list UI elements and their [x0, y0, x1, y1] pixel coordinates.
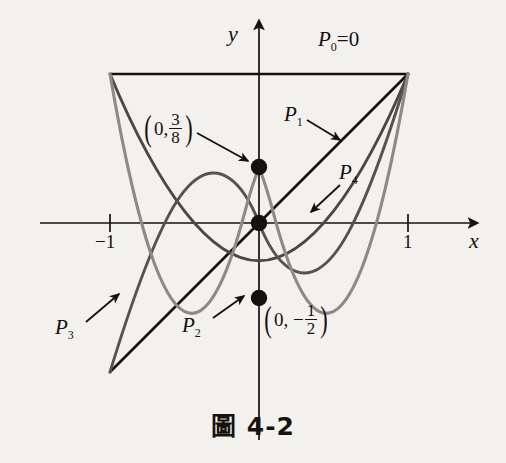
- point-label-minus-one-half-prefix: 0, −: [274, 309, 304, 331]
- fraction-numerator: 1: [305, 302, 318, 319]
- curve-label-p3-subscript: 3: [68, 328, 74, 342]
- figure-caption-cjk: 圖: [211, 412, 237, 441]
- curve-label-p1-letter: P: [284, 102, 297, 126]
- curve-label-p0-letter: P: [318, 27, 331, 51]
- marker-origin: [251, 215, 267, 231]
- fraction-denominator: 8: [169, 128, 182, 146]
- open-paren-icon: (: [264, 305, 271, 335]
- curve-label-p4: P4: [339, 160, 358, 188]
- close-paren-icon: ): [185, 114, 192, 144]
- point-label-minus-one-half: ( 0, − 1 2 ): [262, 302, 330, 338]
- marker-three-eighths: [251, 159, 267, 175]
- curve-label-p4-letter: P: [339, 160, 352, 184]
- leader-arrow-three-eighths: [197, 133, 248, 161]
- curve-label-p2-letter: P: [182, 313, 195, 337]
- figure-caption-number: 4-2: [247, 412, 295, 441]
- x-tick-label-minus-one: −1: [95, 231, 115, 253]
- x-axis-label: x: [469, 228, 479, 254]
- curve-label-p2: P2: [182, 313, 201, 341]
- curve-label-p0: P0=0: [318, 27, 359, 55]
- curve-label-p1-subscript: 1: [297, 115, 303, 129]
- curve-label-p0-suffix: =0: [337, 27, 359, 51]
- curve-label-p1: P1: [284, 102, 303, 130]
- fraction-denominator: 2: [305, 319, 318, 337]
- curve-label-p3: P3: [55, 315, 74, 343]
- figure-caption: 圖 4-2: [0, 406, 506, 442]
- fraction-one-half: 1 2: [305, 302, 318, 338]
- fraction-numerator: 3: [169, 111, 182, 128]
- point-label-three-eighths: ( 0, 3 8 ): [142, 111, 195, 147]
- point-label-three-eighths-prefix: 0,: [154, 118, 168, 140]
- leader-arrow-p2: [213, 296, 244, 318]
- fraction-three-eighths: 3 8: [169, 111, 182, 147]
- curve-label-p4-subscript: 4: [352, 173, 358, 187]
- leader-arrow-p1: [307, 120, 340, 140]
- open-paren-icon: (: [144, 114, 151, 144]
- x-tick-label-one: 1: [403, 231, 413, 253]
- curve-label-p2-subscript: 2: [195, 326, 201, 340]
- figure-container: y x −1 1 P0=0 P1 P4 P3 P2 ( 0, 3 8 ) ( 0…: [0, 0, 506, 463]
- plot-canvas: [0, 0, 506, 463]
- leader-arrow-p3: [86, 294, 119, 322]
- y-axis-label: y: [228, 21, 238, 47]
- curve-label-p3-letter: P: [55, 315, 68, 339]
- close-paren-icon: ): [320, 305, 327, 335]
